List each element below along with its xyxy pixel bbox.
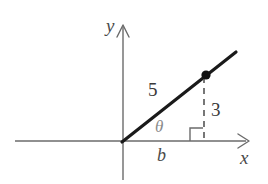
x-axis-label: x — [240, 148, 248, 167]
opposite-length-label: 3 — [211, 100, 221, 119]
hypotenuse-length-label: 5 — [148, 80, 158, 99]
adjacent-length-label: b — [157, 146, 166, 164]
y-axis-label: y — [106, 16, 114, 35]
right-angle-marker-icon — [190, 128, 203, 141]
terminal-ray — [122, 52, 236, 142]
trig-diagram-figure: y x 5 3 b θ — [0, 0, 268, 184]
angle-theta-label: θ — [155, 118, 163, 135]
diagram-canvas — [0, 0, 268, 184]
point-marker — [201, 70, 210, 79]
y-axis — [117, 25, 129, 180]
